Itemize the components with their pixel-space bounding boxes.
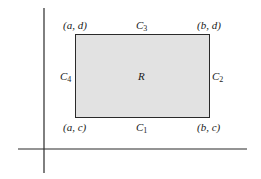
curve-label-c2: C2 — [212, 71, 223, 84]
curve-index: 2 — [219, 75, 223, 84]
curve-index: 1 — [143, 126, 147, 135]
curve-label-c4: C4 — [60, 71, 71, 84]
diagram-canvas — [0, 0, 261, 179]
corner-label-bottom-right: (b, c) — [197, 122, 220, 133]
corner-label-bottom-left: (a, c) — [63, 122, 86, 133]
curve-index: 3 — [143, 24, 147, 33]
curve-label-c3: C3 — [136, 20, 147, 33]
curve-index: 4 — [67, 75, 71, 84]
curve-label-c1: C1 — [136, 122, 147, 135]
corner-label-top-left: (a, d) — [63, 20, 87, 31]
region-label: R — [138, 71, 145, 82]
corner-label-top-right: (b, d) — [197, 20, 221, 31]
